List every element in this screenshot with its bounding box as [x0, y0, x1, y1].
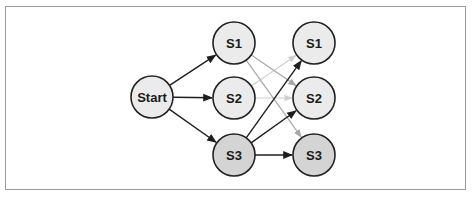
node-r_s3: S3 — [293, 134, 335, 176]
node-r_s2: S2 — [293, 77, 335, 119]
node-start: Start — [131, 76, 173, 118]
node-l_s2: S2 — [213, 77, 255, 119]
node-label: S2 — [226, 91, 242, 106]
node-label: S3 — [306, 148, 322, 163]
node-l_s1: S1 — [213, 22, 255, 64]
edge-start-to-l_s1 — [170, 55, 216, 85]
edge-start-to-l_s3 — [169, 109, 216, 142]
node-r_s1: S1 — [293, 22, 335, 64]
edge-l_s3-to-r_s2 — [251, 111, 296, 143]
node-label: S3 — [226, 148, 242, 163]
node-label: S2 — [306, 91, 322, 106]
state-graph: StartS1S2S3S1S2S3 — [0, 0, 472, 197]
nodes-layer: StartS1S2S3S1S2S3 — [131, 22, 335, 176]
node-l_s3: S3 — [213, 134, 255, 176]
node-label: S1 — [306, 36, 322, 51]
node-label: Start — [137, 90, 167, 105]
node-label: S1 — [226, 36, 242, 51]
